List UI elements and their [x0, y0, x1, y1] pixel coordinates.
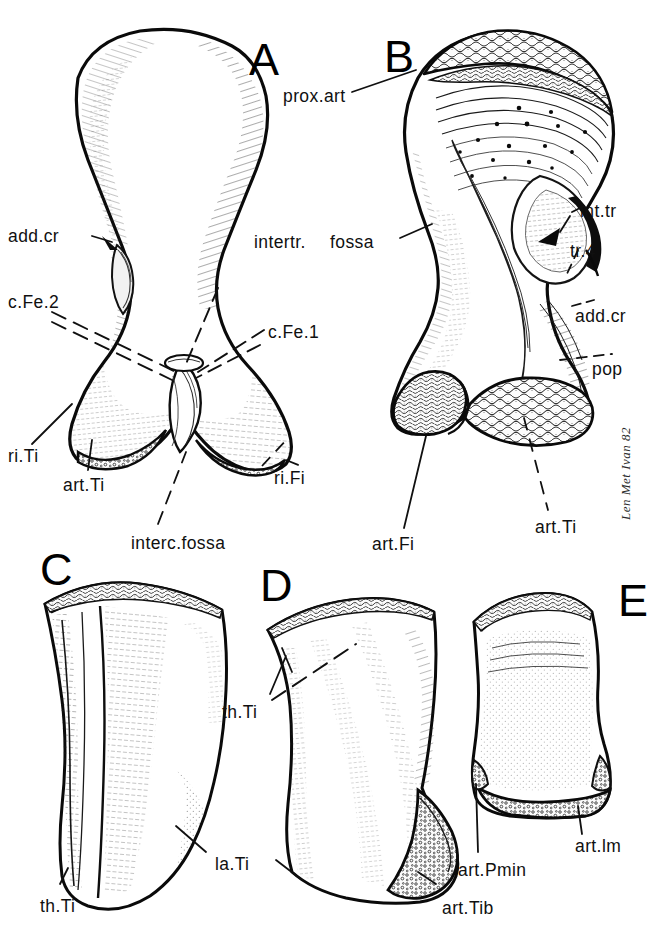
anatomical-figure: A B C D E prox.art add.cr intertr. fossa…	[0, 0, 670, 946]
label-intertr: intertr.	[254, 234, 306, 252]
panel-c-bone	[45, 583, 227, 909]
label-th-ti-c: th.Ti	[40, 898, 75, 916]
panel-letter-d: D	[260, 563, 293, 608]
panel-d-bone	[268, 599, 458, 904]
label-c-fe-2: c.Fe.2	[8, 294, 59, 312]
label-ri-fi: ri.Fi	[274, 470, 305, 488]
label-ri-ti: ri.Ti	[8, 448, 39, 466]
label-c-fe-1: c.Fe.1	[268, 324, 319, 342]
label-add-cr-a: add.cr	[8, 228, 59, 246]
panel-a-bone	[32, 29, 306, 524]
label-add-cr-b: add.cr	[575, 308, 626, 326]
label-th-ti-d: th.Ti	[222, 704, 257, 722]
panel-e-bone	[472, 593, 610, 852]
label-art-fi: art.Fi	[372, 536, 414, 554]
label-art-ti-a: art.Ti	[63, 477, 105, 495]
label-fossa: fossa	[330, 234, 374, 252]
label-art-ti-b: art.Ti	[535, 519, 577, 537]
label-tr-4: tr.4	[570, 243, 596, 261]
label-int-tr: int.tr	[580, 203, 616, 221]
label-interc-fossa: interc.fossa	[131, 535, 225, 553]
panel-letter-e: E	[618, 578, 648, 623]
panel-letter-c: C	[40, 547, 73, 592]
panel-letter-b: B	[384, 34, 414, 79]
label-prox-art: prox.art	[283, 88, 346, 106]
label-art-lm: art.lm	[575, 838, 621, 856]
panel-b-bone	[352, 31, 614, 528]
label-pop: pop	[592, 361, 622, 379]
artist-signature: Len Met Ivan 82	[618, 427, 634, 520]
label-la-ti: la.Ti	[215, 856, 249, 874]
label-art-pmin: art.Pmin	[458, 862, 526, 880]
panel-letter-a: A	[249, 37, 279, 82]
label-art-tib: art.Tib	[442, 900, 494, 918]
figure-illustration	[0, 0, 670, 946]
